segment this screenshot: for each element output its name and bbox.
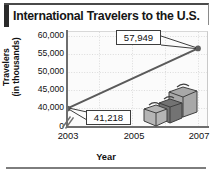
data-label-callout-low: 41,218 xyxy=(86,110,131,125)
y-tick-label: 50,000 xyxy=(24,67,64,76)
chart-figure: International Travelers to the U.S. Trav… xyxy=(0,0,212,174)
x-tick-label: 2007 xyxy=(179,131,212,141)
axis-break-icon xyxy=(60,114,74,130)
y-axis-tick-labels: 60,000 55,000 50,000 45,000 40,000 0 xyxy=(21,0,64,174)
x-axis-tick-labels: 2003 2005 2007 xyxy=(0,131,212,145)
y-tick-label: 55,000 xyxy=(24,49,64,58)
data-label-callout-high: 57,949 xyxy=(116,30,161,45)
x-tick-label: 2005 xyxy=(114,131,154,141)
x-tick-label: 2003 xyxy=(48,131,88,141)
y-tick-label: 40,000 xyxy=(24,103,64,112)
bottom-divider xyxy=(6,167,206,169)
y-tick-label: 0 xyxy=(24,122,64,131)
y-axis-title-line1: Travelers xyxy=(1,17,11,117)
luggage-icon xyxy=(139,78,205,128)
y-tick-label: 60,000 xyxy=(24,31,64,40)
y-tick-label: 45,000 xyxy=(24,85,64,94)
x-axis-title: Year xyxy=(0,152,212,162)
